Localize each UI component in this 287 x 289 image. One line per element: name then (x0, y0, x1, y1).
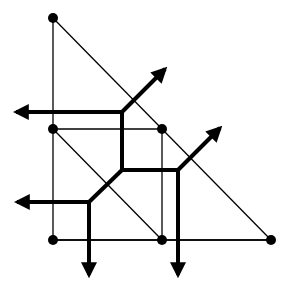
site-point-C (157, 124, 167, 134)
site-point-A (48, 13, 58, 23)
site-point-F (266, 235, 276, 245)
voronoi-ray-arrow-icon (122, 69, 165, 112)
site-point-B (48, 124, 58, 134)
voronoi-edges (16, 69, 220, 275)
site-point-E (157, 235, 167, 245)
voronoi-diagram (0, 0, 287, 289)
site-point-D (48, 235, 58, 245)
voronoi-ray-arrow-icon (178, 128, 220, 170)
diagram-canvas (0, 0, 287, 289)
voronoi-edge-v2-v4 (89, 170, 122, 202)
